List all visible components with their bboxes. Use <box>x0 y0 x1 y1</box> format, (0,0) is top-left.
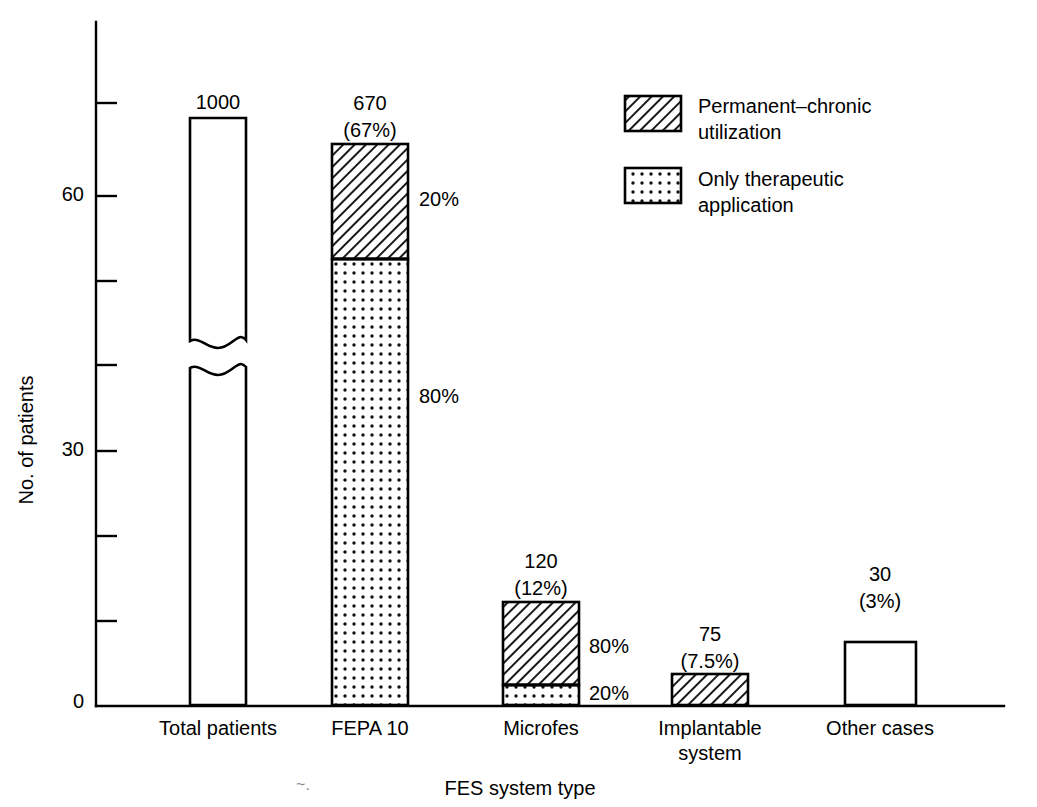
legend-label-permanent-chronic-line2: utilization <box>698 121 781 143</box>
bar-fepa-10[interactable]: 670 (67%) 20% 80% <box>332 92 459 705</box>
bar-fepa-10-segment-therapeutic <box>332 259 408 705</box>
bar-other-cases-value-label: 30 <box>869 563 891 585</box>
chart-figure: 60 30 0 No. of patients 1000 670 <box>0 0 1037 807</box>
bar-total-patients-upper-fill <box>190 110 246 355</box>
category-label-implantable-system-line1: Implantable <box>658 717 761 739</box>
bar-microfes-percent-label: (12%) <box>514 577 567 599</box>
bar-total-patients-lower-fill <box>190 360 246 708</box>
category-label-other-cases: Other cases <box>826 717 934 739</box>
legend-label-permanent-chronic-line1: Permanent–chronic <box>698 95 871 117</box>
legend-swatch-hatch-icon <box>625 96 681 131</box>
bar-microfes-top-segment-percent: 80% <box>589 635 629 657</box>
legend-label-only-therapeutic-line1: Only therapeutic <box>698 168 844 190</box>
scan-artifact-mark: ~. <box>296 776 310 793</box>
category-label-total-patients: Total patients <box>159 717 277 739</box>
bar-other-cases-fill <box>845 642 916 705</box>
bar-implantable-system[interactable]: 75 (7.5%) <box>672 623 748 705</box>
x-axis-category-labels: Total patients FEPA 10 Microfes Implanta… <box>159 717 934 799</box>
y-tick-label-30: 30 <box>62 438 84 460</box>
bar-other-cases[interactable]: 30 (3%) <box>845 563 916 705</box>
category-label-microfes: Microfes <box>503 717 579 739</box>
bar-fepa-10-segment-permanent-chronic <box>332 144 408 259</box>
legend-swatch-dots-icon <box>625 168 681 203</box>
bar-fepa-10-bottom-segment-percent: 80% <box>419 385 459 407</box>
bar-fepa-10-percent-label: (67%) <box>343 119 396 141</box>
bar-other-cases-percent-label: (3%) <box>859 590 901 612</box>
bar-fepa-10-top-segment-percent: 20% <box>419 188 459 210</box>
bar-fepa-10-value-label: 670 <box>353 92 386 114</box>
y-tick-label-60: 60 <box>62 183 84 205</box>
bar-total-patients-value-label: 1000 <box>196 91 241 113</box>
bar-microfes-segment-therapeutic <box>503 685 579 705</box>
y-axis: 60 30 0 No. of patients <box>15 22 117 712</box>
bar-implantable-system-fill <box>672 674 748 705</box>
bar-implantable-system-value-label: 75 <box>699 623 721 645</box>
category-label-implantable-system-line2: system <box>678 742 741 764</box>
y-tick-label-0: 0 <box>73 690 84 712</box>
legend-item-only-therapeutic[interactable]: Only therapeutic application <box>625 168 844 216</box>
bar-implantable-system-percent-label: (7.5%) <box>681 650 740 672</box>
bar-microfes-bottom-segment-percent: 20% <box>589 682 629 704</box>
bar-microfes-value-label: 120 <box>524 550 557 572</box>
bar-microfes[interactable]: 120 (12%) 80% 20% <box>503 550 629 705</box>
legend-label-only-therapeutic-line2: application <box>698 194 794 216</box>
legend-item-permanent-chronic[interactable]: Permanent–chronic utilization <box>625 95 871 143</box>
bar-chart-svg: 60 30 0 No. of patients 1000 670 <box>0 0 1037 807</box>
bar-total-patients[interactable]: 1000 <box>190 91 246 708</box>
category-label-fepa-10: FEPA 10 <box>331 717 408 739</box>
bar-microfes-segment-permanent-chronic <box>503 602 579 685</box>
y-axis-title: No. of patients <box>15 376 37 505</box>
x-axis-title: FES system type <box>444 777 595 799</box>
legend: Permanent–chronic utilization Only thera… <box>625 95 871 216</box>
